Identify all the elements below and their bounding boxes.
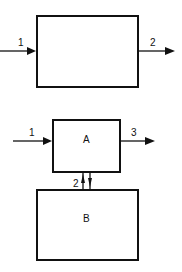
box-b-label: B bbox=[83, 213, 90, 224]
input-stream-label: 1 bbox=[18, 37, 24, 48]
exchange-up-arrowhead-icon bbox=[81, 174, 85, 183]
input-arrowhead-icon bbox=[43, 137, 52, 145]
output-arrowhead-icon bbox=[165, 47, 175, 55]
process-box-a bbox=[53, 120, 120, 172]
output-stream-label: 3 bbox=[131, 127, 137, 138]
box-a-label: A bbox=[83, 134, 90, 145]
coupled-process-diagram: A B 1 3 2 bbox=[13, 120, 155, 260]
output-stream-label: 2 bbox=[150, 37, 156, 48]
exchange-stream-label: 2 bbox=[73, 178, 79, 189]
exchange-down-arrowhead-icon bbox=[88, 178, 92, 187]
process-box-b bbox=[37, 190, 138, 260]
input-arrowhead-icon bbox=[27, 47, 36, 55]
process-diagram: 1 2 A B 1 3 2 bbox=[0, 0, 182, 272]
process-box bbox=[37, 16, 138, 87]
output-arrowhead-icon bbox=[145, 137, 155, 145]
input-stream-label: 1 bbox=[29, 127, 35, 138]
single-process-diagram: 1 2 bbox=[0, 16, 175, 87]
